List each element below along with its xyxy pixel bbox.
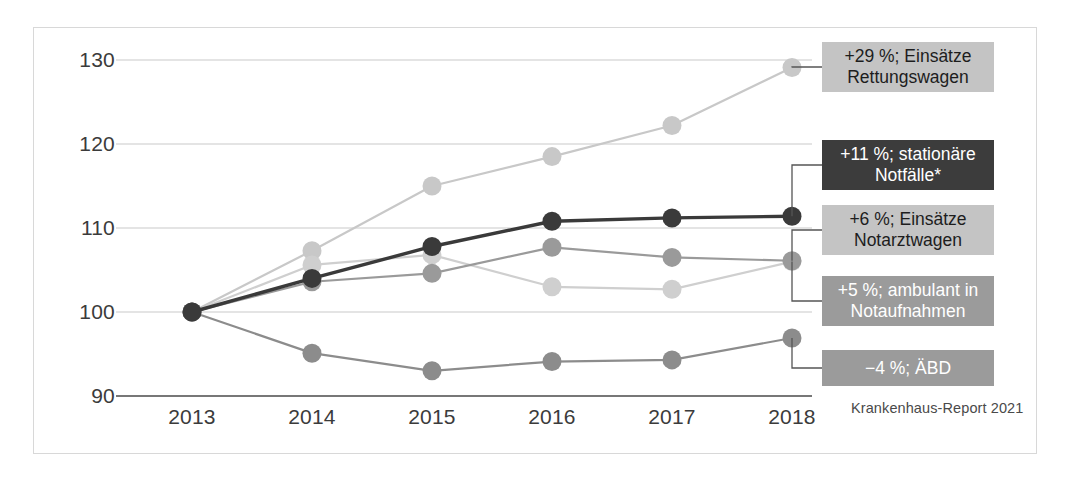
callout-rettungswagen-line1: +29 %; Einsätze [845,46,972,66]
data-point-marker [423,237,442,256]
series-line [192,312,792,371]
callout-stationaere-line1: +11 %; stationäre [840,144,975,164]
data-point-marker [663,248,682,267]
data-point-marker [303,344,322,363]
data-point-marker [663,116,682,135]
callout-ambulant-line2: Notaufnahmen [851,301,966,321]
data-point-marker [663,350,682,369]
data-point-marker [543,212,562,231]
callout-ambulant-line1: +5 %; ambulant in [838,280,979,300]
callout-notarztwagen[interactable]: +6 %; Einsätze Notarztwagen [822,205,994,255]
callout-leader-line [792,67,822,68]
series-line [192,216,792,312]
callout-notarztwagen-line1: +6 %; Einsätze [849,209,966,229]
callout-notarztwagen-line2: Notarztwagen [854,230,962,250]
source-note: Krankenhaus-Report 2021 [851,400,1023,416]
series-line [192,255,792,312]
gridlines [116,60,812,396]
callout-stationaere-line2: Notfälle* [875,165,941,185]
callout-ambulant-notaufnahmen[interactable]: +5 %; ambulant in Notaufnahmen [822,276,994,326]
data-point-marker [543,147,562,166]
series-line [192,247,792,312]
callout-rettungswagen[interactable]: +29 %; Einsätze Rettungswagen [822,42,994,92]
data-point-marker [663,208,682,227]
callout-stationaere-notfaelle[interactable]: +11 %; stationäre Notfälle* [822,140,994,190]
data-point-marker [543,277,562,296]
data-point-marker [543,352,562,371]
data-point-marker [423,361,442,380]
callout-aebd-line1: −4 %; ÄBD [865,358,951,379]
data-point-marker [663,280,682,299]
callout-aebd[interactable]: −4 %; ÄBD [822,350,994,386]
data-point-marker [303,269,322,288]
chart-figure: 130 120 110 100 90 2013 2014 2015 2016 2… [0,0,1070,491]
data-point-marker [423,264,442,283]
callout-rettungswagen-line2: Rettungswagen [847,67,969,87]
series-layer [183,58,802,380]
data-point-marker [423,177,442,196]
data-point-marker [543,238,562,257]
data-point-marker [183,303,202,322]
series-line [192,68,792,312]
